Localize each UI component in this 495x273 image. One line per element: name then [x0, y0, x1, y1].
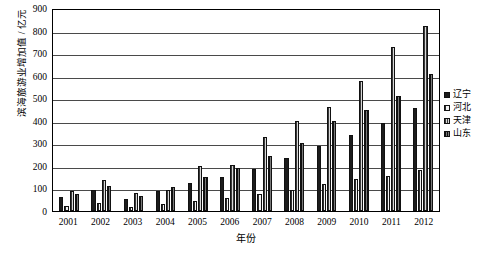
bar [257, 194, 261, 211]
bar [381, 123, 385, 211]
bar [91, 190, 95, 211]
bar [317, 146, 321, 211]
x-tick-label: 2001 [52, 212, 84, 228]
bar [220, 177, 224, 211]
x-tick-label: 2009 [311, 212, 343, 228]
bar [263, 137, 267, 211]
bar [322, 184, 326, 211]
bar [413, 108, 417, 211]
bar [290, 190, 294, 211]
bar [295, 121, 299, 211]
bar [139, 196, 143, 211]
bar [59, 197, 63, 211]
x-tick-label: 2003 [117, 212, 149, 228]
bar [64, 206, 68, 211]
bar [364, 110, 368, 212]
figure-caption [0, 258, 495, 273]
bar [354, 179, 358, 211]
bar [193, 201, 197, 211]
chart-figure: 滨海旅游业增加值 / 亿元 90080070060050040030020010… [0, 0, 495, 273]
y-tick-label: 500 [33, 95, 47, 104]
x-tick-label: 2006 [214, 212, 246, 228]
y-tick-label: 0 [42, 208, 47, 217]
bar [129, 207, 133, 212]
bar [429, 74, 433, 211]
y-tick-label: 300 [33, 140, 47, 149]
bar-group [246, 10, 278, 211]
bar [284, 158, 288, 211]
bar [230, 165, 234, 211]
bar-group [85, 10, 117, 211]
bar [252, 169, 256, 211]
bar-group [375, 10, 407, 211]
bar [236, 168, 240, 211]
x-axis-tick-labels: 2001200220032004200520062007200820092010… [52, 212, 440, 228]
bar-group [53, 10, 85, 211]
bar-group [150, 10, 182, 211]
bar [70, 191, 74, 211]
bar [166, 190, 170, 211]
x-tick-label: 2008 [278, 212, 310, 228]
x-tick-label: 2010 [343, 212, 375, 228]
legend-item[interactable]: 山东 [444, 127, 494, 140]
y-tick-label: 100 [33, 185, 47, 194]
x-tick-label: 2005 [181, 212, 213, 228]
bar [225, 198, 229, 211]
bar-group [407, 10, 439, 211]
bar [386, 176, 390, 211]
bar-group [278, 10, 310, 211]
legend-swatch-icon [444, 118, 450, 124]
bar [171, 187, 175, 211]
bar [156, 191, 160, 211]
y-tick-label: 700 [33, 50, 47, 59]
x-tick-label: 2002 [84, 212, 116, 228]
x-axis-title: 年份 [52, 230, 440, 245]
bar [124, 199, 128, 211]
bar [161, 204, 165, 211]
x-tick-label: 2012 [408, 212, 440, 228]
bar [359, 81, 363, 211]
y-tick-label: 900 [33, 5, 47, 14]
legend-swatch-icon [444, 131, 450, 137]
bar-groups [53, 10, 439, 211]
legend-item[interactable]: 河北 [444, 101, 494, 114]
x-tick-label: 2007 [246, 212, 278, 228]
bar [102, 180, 106, 211]
bar [107, 186, 111, 211]
bar [349, 135, 353, 211]
bar-group [117, 10, 149, 211]
bar [396, 96, 400, 211]
bar [418, 170, 422, 211]
chart-legend: 辽宁河北天津山东 [444, 88, 494, 140]
bar [188, 183, 192, 211]
bar [268, 156, 272, 211]
bar [332, 121, 336, 211]
bar [327, 107, 331, 211]
bar [300, 143, 304, 211]
bar-group [310, 10, 342, 211]
legend-label: 辽宁 [453, 88, 471, 101]
legend-swatch-icon [444, 105, 450, 111]
bar [203, 177, 207, 211]
y-axis-tick-labels: 9008007006005004003002001000 [14, 9, 50, 212]
bar [134, 193, 138, 211]
legend-item[interactable]: 天津 [444, 114, 494, 127]
bar [97, 203, 101, 211]
legend-label: 天津 [453, 114, 471, 127]
legend-item[interactable]: 辽宁 [444, 88, 494, 101]
y-tick-label: 400 [33, 118, 47, 127]
bar-group [182, 10, 214, 211]
bar [391, 47, 395, 211]
y-tick-label: 800 [33, 28, 47, 37]
legend-swatch-icon [444, 92, 450, 98]
x-tick-label: 2004 [149, 212, 181, 228]
legend-label: 河北 [453, 101, 471, 114]
plot-area [52, 9, 440, 212]
bar-group [214, 10, 246, 211]
bar-group [343, 10, 375, 211]
y-tick-label: 200 [33, 163, 47, 172]
y-tick-label: 600 [33, 73, 47, 82]
legend-label: 山东 [453, 127, 471, 140]
bar [423, 26, 427, 211]
bar [198, 166, 202, 211]
